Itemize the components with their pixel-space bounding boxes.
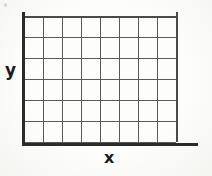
y-axis-label: y — [5, 62, 16, 79]
gridline-horizontal — [24, 58, 176, 59]
x-axis-line — [22, 143, 198, 146]
gridline-vertical — [176, 12, 178, 142]
y-axis-line — [22, 12, 25, 146]
plot-area — [24, 16, 176, 142]
gridline-horizontal — [24, 79, 176, 80]
gridline-horizontal — [24, 37, 176, 38]
gridline-horizontal — [24, 100, 176, 101]
grid-plot-figure: y x — [0, 0, 212, 176]
gridline-horizontal — [24, 121, 176, 122]
scan-speck — [4, 3, 7, 7]
gridline-horizontal — [24, 16, 176, 18]
x-axis-label: x — [104, 150, 114, 166]
